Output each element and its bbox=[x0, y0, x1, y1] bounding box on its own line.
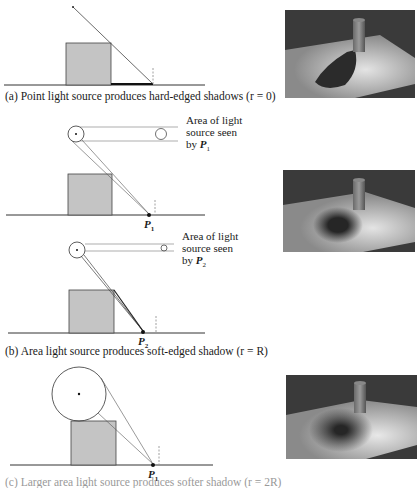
panel-b-bottom-diagram bbox=[8, 242, 205, 334]
caption-c-partial: (c) Larger area light source produces so… bbox=[5, 476, 281, 488]
render-softer-shadow bbox=[286, 375, 417, 459]
label-line: by bbox=[186, 138, 200, 150]
point-sub: 1 bbox=[206, 145, 210, 153]
render-hard-shadow bbox=[285, 10, 415, 98]
panel-c-diagram bbox=[10, 367, 213, 467]
caption-b: (b) Area light source produces soft-edge… bbox=[5, 345, 268, 357]
label-line: Area of light bbox=[182, 230, 238, 242]
label-area-seen-by-p2: Area of light source seen by P2 bbox=[182, 230, 238, 271]
label-line: source seen bbox=[186, 126, 242, 138]
point-p1-top: P1 bbox=[144, 218, 154, 233]
render-soft-shadow bbox=[283, 170, 415, 252]
label-area-seen-by-p1: Area of light source seen by P1 bbox=[186, 114, 242, 155]
label-line: Area of light bbox=[186, 114, 242, 126]
point-sub: 2 bbox=[202, 261, 206, 269]
label-line: source seen bbox=[182, 242, 238, 254]
panel-a-diagram bbox=[4, 6, 205, 85]
label-line: by bbox=[182, 254, 196, 266]
panel-b-top-diagram bbox=[6, 126, 205, 217]
caption-a: (a) Point light source produces hard-edg… bbox=[5, 90, 276, 102]
